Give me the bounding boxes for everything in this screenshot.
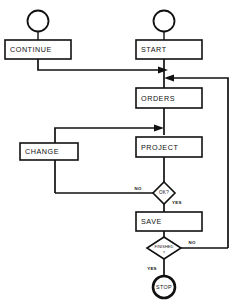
- node-stop[interactable]: STOP: [153, 276, 175, 298]
- arrowhead-continue-join: [158, 67, 168, 74]
- node-orders-label: ORDERS: [141, 94, 175, 103]
- node-start[interactable]: START: [136, 40, 202, 59]
- flowchart-svg: CONTINUE START ORDERS CHANGE PROJECT OK?: [0, 0, 244, 304]
- arrowhead-finished-no-return: [164, 75, 174, 82]
- node-continue-label: CONTINUE: [10, 45, 52, 54]
- node-change[interactable]: CHANGE: [20, 143, 78, 160]
- edge-continue-to-orders-junction: [38, 59, 160, 70]
- node-change-label: CHANGE: [25, 147, 59, 156]
- node-continue-connector[interactable]: [28, 11, 49, 32]
- node-start-connector[interactable]: [154, 11, 175, 32]
- node-continue[interactable]: CONTINUE: [5, 40, 71, 59]
- node-orders[interactable]: ORDERS: [136, 88, 202, 108]
- flowchart-canvas: CONTINUE START ORDERS CHANGE PROJECT OK?: [0, 0, 244, 304]
- node-save-label: SAVE: [141, 217, 162, 226]
- arrowhead-change-loop-join: [154, 125, 164, 132]
- edge-label-ok-yes: YES: [172, 200, 182, 205]
- node-finished-decision-label-line1: FINISHED: [155, 244, 174, 249]
- node-ok-decision-label: OK?: [159, 190, 169, 195]
- edge-label-finished-no: NO: [188, 240, 195, 245]
- node-project-label: PROJECT: [141, 143, 178, 152]
- edge-label-ok-no: NO: [134, 186, 141, 191]
- node-finished-decision[interactable]: FINISHED ?: [147, 237, 181, 259]
- node-stop-label: STOP: [156, 284, 172, 290]
- node-start-label: START: [141, 45, 167, 54]
- node-save[interactable]: SAVE: [136, 212, 202, 231]
- node-project[interactable]: PROJECT: [136, 137, 202, 157]
- edge-label-finished-yes: YES: [147, 266, 157, 271]
